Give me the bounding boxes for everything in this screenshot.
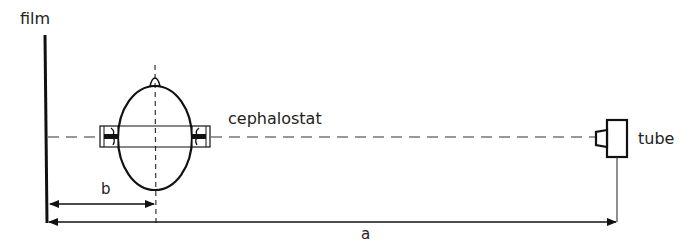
midsagittal-line bbox=[155, 65, 156, 223]
cephalostat-label: cephalostat bbox=[228, 109, 322, 128]
left-ear-rod bbox=[100, 126, 118, 147]
film-label: film bbox=[20, 9, 50, 28]
film-plate bbox=[45, 35, 47, 223]
dimension-b-label: b bbox=[101, 180, 111, 198]
tube-label: tube bbox=[638, 129, 674, 148]
cephalometric-diagram: film cephalostat bbox=[0, 0, 697, 250]
dimension-a-label: a bbox=[361, 225, 370, 243]
xray-tube-icon bbox=[596, 120, 627, 157]
right-ear-rod bbox=[192, 126, 210, 147]
